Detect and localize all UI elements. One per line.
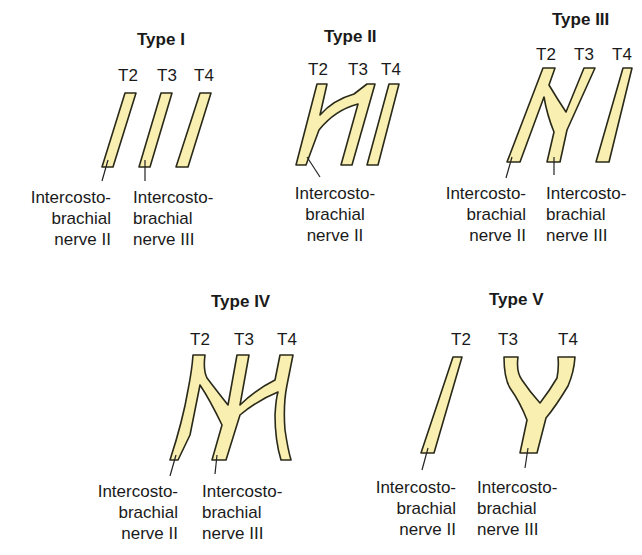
type-i-t2-nerve: [102, 93, 136, 167]
type-iv-caption-nerve-iii: Intercosto- brachial nerve III: [202, 481, 312, 544]
caption-line: nerve III: [202, 523, 312, 544]
type-v-t3-t4-nerve: [504, 357, 575, 453]
caption-line: Intercosto-: [350, 477, 456, 498]
type-iv-nerves: [170, 355, 293, 476]
type-iii-nerves: [506, 68, 632, 178]
type-i-t3-nerve: [139, 93, 172, 167]
caption-line: brachial: [5, 208, 111, 229]
caption-line: Intercosto-: [133, 187, 243, 208]
type-v-caption-nerve-iii: Intercosto- brachial nerve III: [477, 477, 587, 540]
type-iii-t4-nerve: [596, 68, 632, 162]
caption-line: nerve II: [5, 229, 111, 250]
type-iv-caption-nerve-ii: Intercosto- brachial nerve II: [72, 481, 178, 544]
caption-line: nerve III: [477, 519, 587, 540]
caption-line: Intercosto-: [202, 481, 312, 502]
caption-line: Intercosto-: [5, 187, 111, 208]
type-iii-caption-nerve-ii: Intercosto- brachial nerve II: [420, 183, 526, 246]
type-v-nerves: [421, 357, 575, 470]
type-i-t4-nerve: [176, 93, 211, 167]
type-iii-t2-t3-nerve: [507, 68, 595, 162]
caption-line: nerve II: [72, 523, 178, 544]
type-iv-nerves-complex: [170, 355, 293, 460]
type-v-caption-nerve-ii: Intercosto- brachial nerve II: [350, 477, 456, 540]
caption-line: brachial: [202, 502, 312, 523]
caption-line: nerve II: [420, 225, 526, 246]
caption-line: brachial: [350, 498, 456, 519]
caption-line: nerve III: [133, 229, 243, 250]
caption-line: nerve II: [280, 225, 390, 246]
type-iii-caption-nerve-iii: Intercosto- brachial nerve III: [546, 183, 642, 246]
type-ii-caption-nerve-ii: Intercosto- brachial nerve II: [280, 183, 390, 246]
nerve-diagram: [0, 0, 642, 555]
type-i-nerves: [102, 93, 211, 181]
type-ii-nerves: [296, 84, 399, 177]
caption-line: nerve III: [546, 225, 642, 246]
caption-line: brachial: [546, 204, 642, 225]
type-i-caption-nerve-iii: Intercosto- brachial nerve III: [133, 187, 243, 250]
caption-line: brachial: [477, 498, 587, 519]
caption-line: brachial: [72, 502, 178, 523]
caption-line: Intercosto-: [477, 477, 587, 498]
caption-line: brachial: [133, 208, 243, 229]
caption-line: brachial: [280, 204, 390, 225]
type-v-t2-nerve: [421, 357, 462, 453]
caption-line: Intercosto-: [546, 183, 642, 204]
caption-line: nerve II: [350, 519, 456, 540]
type-i-caption-nerve-ii: Intercosto- brachial nerve II: [5, 187, 111, 250]
caption-line: Intercosto-: [420, 183, 526, 204]
caption-line: Intercosto-: [280, 183, 390, 204]
caption-line: brachial: [420, 204, 526, 225]
caption-line: Intercosto-: [72, 481, 178, 502]
type-ii-t2-t3-nerve: [296, 84, 375, 165]
